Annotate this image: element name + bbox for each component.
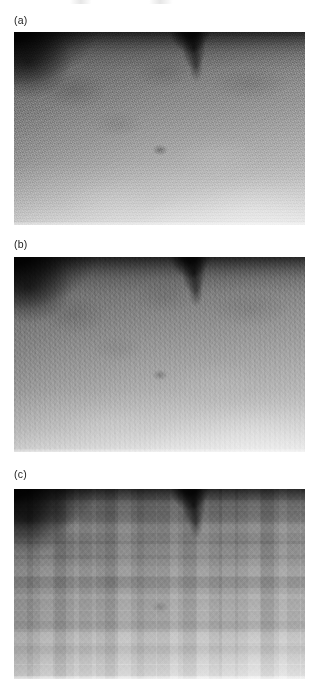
panel-a-image [14, 32, 305, 225]
panel-b-label: (b) [14, 238, 27, 250]
panel-b-bottom-edge [14, 449, 305, 452]
cropped-caption-remnant [70, 0, 250, 4]
panel-a-block: (a) [0, 14, 320, 225]
figure-root: (a) (b) (c [0, 0, 320, 692]
panel-a-bottom-glow [14, 32, 305, 225]
panel-b-block: (b) [0, 238, 320, 452]
panel-b-image [14, 257, 305, 452]
panel-c-bottom-glow [14, 489, 305, 679]
panel-a-label: (a) [14, 14, 27, 26]
panel-c-label: (c) [14, 468, 27, 480]
panel-b-bottom-glow [14, 257, 305, 452]
panel-c-block: (c) [0, 468, 320, 679]
panel-c-bottom-edge [14, 676, 305, 679]
panel-a-bottom-edge [14, 222, 305, 225]
panel-c-image [14, 489, 305, 679]
